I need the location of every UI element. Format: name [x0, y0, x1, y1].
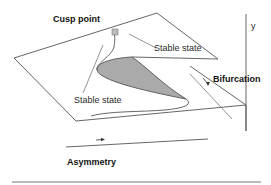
bifurcation-arrow-icon	[206, 82, 210, 86]
surface-fold-right-edge	[190, 66, 246, 105]
label-stable-state-upper: Stable state	[154, 44, 202, 53]
cusp-catastrophe-diagram	[0, 0, 271, 185]
label-bifurcation: Bifurcation	[213, 75, 261, 84]
label-stable-state-lower: Stable state	[74, 96, 122, 105]
label-asymmetry: Asymmetry	[67, 158, 116, 167]
cusp-point-marker	[112, 29, 118, 35]
label-y-axis: y	[251, 22, 256, 31]
fold-region	[97, 57, 186, 99]
label-cusp-point: Cusp point	[53, 15, 100, 24]
asymmetry-arrow-icon	[101, 138, 105, 141]
asymmetry-axis	[66, 139, 208, 147]
leader-stable-upper	[129, 34, 156, 48]
